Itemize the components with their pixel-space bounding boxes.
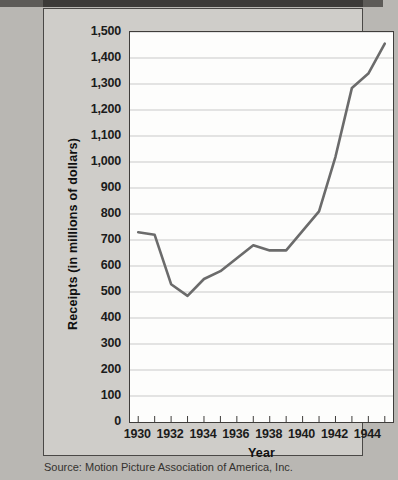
line-chart-svg [130,32,393,422]
y-axis-tick-label: 600 [101,258,121,272]
y-axis-tick-label: 800 [101,206,121,220]
x-axis-tick-label: 1934 [189,427,216,441]
x-axis-tick-label: 1936 [222,427,249,441]
x-axis-tick-label: 1942 [321,427,348,441]
x-axis-tick-label: 1940 [288,427,315,441]
y-axis-tick-label: 100 [101,388,121,402]
data-line-motion-picture-receipts [138,44,385,296]
y-axis-tick-label: 900 [101,180,121,194]
page-top-band [0,0,383,7]
figure-frame: 1,5001,4001,3001,2001,1001,0009008007006… [43,8,363,456]
y-axis-tick-label: 200 [101,362,121,376]
page-top-band-inner [43,0,363,7]
y-axis-tick-label: 0 [114,414,121,428]
y-axis-tick-label: 1,200 [91,102,121,116]
plot-area [129,31,394,423]
y-axis-tick-label: 400 [101,310,121,324]
x-axis-tick-label: 1932 [157,427,184,441]
x-axis-tick-labels: 19301932193419361938194019421944 [44,427,398,447]
source-note: Source: Motion Picture Association of Am… [44,461,293,473]
x-axis-title: Year [129,446,394,460]
x-axis-tick-label: 1938 [255,427,282,441]
y-axis-tick-label: 300 [101,336,121,350]
y-axis-tick-label: 1,000 [91,154,121,168]
y-axis-tick-label: 500 [101,284,121,298]
x-axis-tick-label: 1930 [124,427,151,441]
x-axis-tick-label: 1944 [354,427,381,441]
y-axis-tick-label: 1,300 [91,76,121,90]
y-axis-tick-label: 1,400 [91,50,121,64]
y-axis-tick-label: 1,100 [91,128,121,142]
y-axis-tick-labels: 1,5001,4001,3001,2001,1001,0009008007006… [44,9,129,429]
y-axis-title: Receipts (in millions of dollars) [66,109,80,359]
y-axis-tick-label: 700 [101,232,121,246]
y-axis-tick-label: 1,500 [91,24,121,38]
